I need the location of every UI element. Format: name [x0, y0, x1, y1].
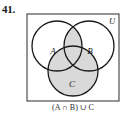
set-label-c: C [69, 79, 76, 89]
universe-label: U [109, 16, 116, 26]
venn-diagram-svg: A B C U [26, 13, 120, 102]
figure-caption: (A ∩ B) ∪ C [26, 103, 120, 113]
problem-number: 41. [2, 3, 15, 15]
set-label-b: B [87, 46, 93, 56]
figure-page: 41. A B [0, 0, 121, 118]
set-label-a: A [49, 46, 56, 56]
venn-diagram: A B C U [26, 13, 120, 102]
